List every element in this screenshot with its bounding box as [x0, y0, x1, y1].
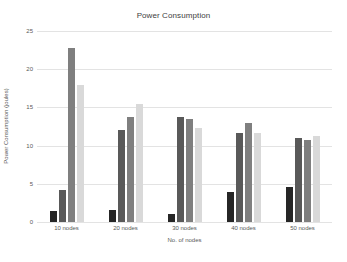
- bar: [127, 117, 134, 222]
- y-tick-label: 0: [0, 219, 33, 225]
- bar-group: [227, 31, 261, 222]
- bar: [59, 190, 66, 222]
- x-axis-category-labels: 10 nodes20 nodes30 nodes40 nodes50 nodes: [37, 225, 332, 232]
- bar-groups: [37, 31, 332, 222]
- x-category-label: 40 nodes: [214, 225, 273, 232]
- y-tick-label: 20: [0, 66, 33, 72]
- bar-group: [168, 31, 202, 222]
- bar: [313, 136, 320, 222]
- bar: [254, 133, 261, 222]
- y-tick-label: 25: [0, 28, 33, 34]
- x-axis-title: No. of nodes: [37, 237, 332, 243]
- bar: [304, 140, 311, 223]
- bar-group: [286, 31, 320, 222]
- bar: [50, 211, 57, 222]
- bar: [177, 117, 184, 222]
- bar: [136, 104, 143, 222]
- bar: [186, 119, 193, 222]
- chart-figure: Power Consumption 0%10%20%30% Power Cons…: [0, 0, 347, 262]
- y-tick-label: 10: [0, 143, 33, 149]
- bar: [236, 133, 243, 222]
- x-category-label: 30 nodes: [155, 225, 214, 232]
- bar: [195, 128, 202, 222]
- bar: [118, 130, 125, 222]
- bar: [295, 138, 302, 222]
- bar: [77, 85, 84, 222]
- x-category-label: 10 nodes: [37, 225, 96, 232]
- bar: [168, 214, 175, 222]
- plot-area: [37, 31, 332, 222]
- gridline: [37, 222, 332, 223]
- bar: [68, 48, 75, 222]
- bar: [286, 187, 293, 222]
- y-tick-label: 5: [0, 181, 33, 187]
- chart-title: Power Consumption: [0, 11, 347, 20]
- bar: [245, 123, 252, 222]
- x-category-label: 20 nodes: [96, 225, 155, 232]
- bar: [109, 210, 116, 222]
- bar-group: [50, 31, 84, 222]
- bar: [227, 192, 234, 222]
- x-category-label: 50 nodes: [273, 225, 332, 232]
- bar-group: [109, 31, 143, 222]
- y-axis-ticks: 0510152025: [0, 31, 33, 222]
- y-tick-label: 15: [0, 104, 33, 110]
